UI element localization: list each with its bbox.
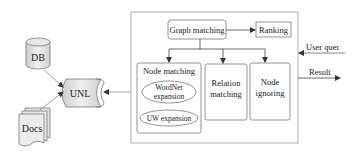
ranking-label: Ranking xyxy=(259,25,289,35)
uw-expansion-label: UW expansion xyxy=(147,114,192,123)
architecture-diagram: DB Docs UNL Graph matching Ranking Node … xyxy=(0,0,359,153)
docs-to-unl-arrow xyxy=(40,92,63,110)
unl-label: UNL xyxy=(70,88,91,99)
db-label: DB xyxy=(31,52,45,63)
node-ignoring-line2: ignoring xyxy=(256,88,286,98)
wordnet-line1: WordNet xyxy=(155,83,183,92)
db-to-unl-arrow xyxy=(44,70,63,87)
node-ignoring-line1: Node xyxy=(261,77,280,87)
result-label: Result xyxy=(309,67,331,77)
relation-matching-line2: matching xyxy=(210,89,242,99)
wordnet-line2: expansion xyxy=(154,92,185,101)
relation-matching-line1: Relation xyxy=(212,78,242,88)
graph-matching-label: Graph matching xyxy=(170,25,226,35)
user-query-label: User quer xyxy=(306,42,339,52)
docs-label: Docs xyxy=(22,123,43,134)
node-matching-title: Node matching xyxy=(143,66,196,76)
